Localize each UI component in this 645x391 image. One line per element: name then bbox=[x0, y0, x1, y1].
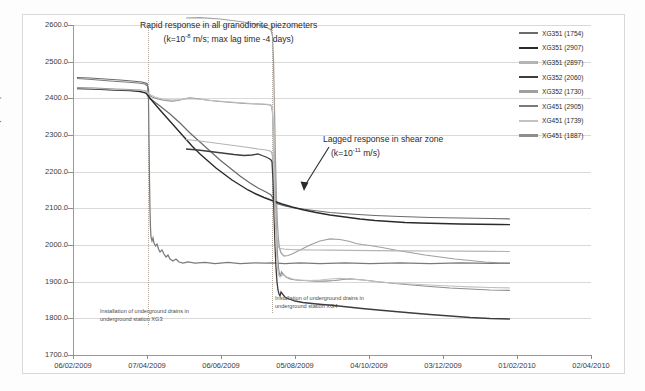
legend-swatch-icon bbox=[519, 32, 538, 34]
series-line-xg451-2905 bbox=[77, 79, 510, 264]
annotation-drains-xg4: Installation of underground drains in un… bbox=[275, 295, 364, 310]
legend-swatch-icon bbox=[519, 76, 538, 78]
legend-label: XG351 (2897) bbox=[542, 59, 583, 66]
legend-item[interactable]: XG351 (1754) bbox=[519, 26, 623, 41]
legend-label: XG352 (1730) bbox=[542, 88, 583, 95]
series-line-xg351-1754 bbox=[77, 78, 510, 220]
series-line-xg451-1887 bbox=[77, 88, 510, 291]
legend-swatch-icon bbox=[519, 120, 538, 122]
legend-swatch-icon bbox=[519, 47, 538, 49]
lagged-response-arrow bbox=[295, 145, 335, 195]
annotation-rapid-response: Rapid response in all granodiorite piezo… bbox=[140, 20, 317, 45]
annotation-lagged-line1: Lagged response in shear zone bbox=[323, 134, 443, 145]
legend-swatch-icon bbox=[519, 134, 538, 136]
annotation-drains-xg3: Installation of underground drains in un… bbox=[100, 308, 189, 323]
legend-swatch-icon bbox=[519, 61, 538, 63]
legend-swatch-icon bbox=[519, 105, 538, 107]
legend-label: XG451 (1887) bbox=[542, 132, 583, 139]
legend-item[interactable]: XG351 (2897) bbox=[519, 55, 623, 70]
legend-label: XG451 (2905) bbox=[542, 103, 583, 110]
legend-label: XG451 (1739) bbox=[542, 117, 583, 124]
legend-label: XG351 (2907) bbox=[542, 44, 583, 51]
legend-label: XG351 (1754) bbox=[542, 30, 583, 37]
chart-legend: XG351 (1754) XG351 (2907) XG351 (2897) X… bbox=[519, 26, 623, 146]
legend-swatch-icon bbox=[519, 90, 538, 92]
legend-label: XG352 (2060) bbox=[542, 74, 583, 81]
annotation-lagged-line2: (k=10-11 m/s) bbox=[323, 145, 443, 159]
series-line-xg351-2907 bbox=[77, 89, 510, 225]
annotation-rapid-line1: Rapid response in all granodiorite piezo… bbox=[140, 20, 317, 31]
annotation-lagged-response: Lagged response in shear zone (k=10-11 m… bbox=[323, 134, 443, 159]
chart-screenshot: Total head (mamsl) 2600.0 2500.0 2400.0 … bbox=[0, 0, 645, 391]
annotation-rapid-line2: (k=10-8 m/s; max lag time -4 days) bbox=[140, 31, 317, 45]
legend-item[interactable]: XG352 (1730) bbox=[519, 84, 623, 99]
annotation-xg3-line2: underground station XG3 bbox=[100, 316, 189, 324]
annotation-xg4-line2: underground station XG4 bbox=[275, 303, 364, 311]
series-line-xg352-2060 bbox=[186, 149, 510, 319]
legend-item[interactable]: XG451 (2905) bbox=[519, 99, 623, 114]
annotation-xg4-line1: Installation of underground drains in bbox=[275, 295, 364, 303]
legend-item[interactable]: XG451 (1739) bbox=[519, 114, 623, 129]
legend-item[interactable]: XG451 (1887) bbox=[519, 128, 623, 143]
legend-item[interactable]: XG352 (2060) bbox=[519, 70, 623, 85]
legend-item[interactable]: XG351 (2907) bbox=[519, 41, 623, 56]
annotation-xg3-line1: Installation of underground drains in bbox=[100, 308, 189, 316]
